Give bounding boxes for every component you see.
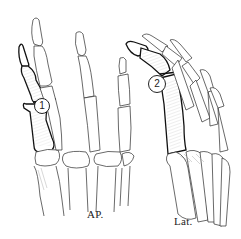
ap-middle-finger [62,32,100,212]
ap-view-drawing [0,0,241,239]
lat-fingers [142,34,228,152]
lat-view-label: Lat. [174,215,193,227]
ap-little-finger [120,152,134,206]
callout-2: 2 [148,75,166,93]
ap-ring-finger [94,57,131,212]
callout-1: 1 [34,98,50,114]
hand-skeleton-figure: 1 2 AP. Lat. [0,0,241,239]
ap-view-label: AP. [87,208,104,220]
